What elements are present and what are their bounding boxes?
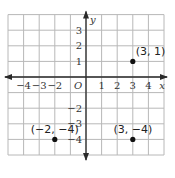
coordinate-plane: −4−3−21234321−2−3−4xyO (3, 1)(−2, −4)(3,…	[0, 0, 175, 178]
x-tick-label: 1	[98, 80, 104, 91]
data-point	[130, 137, 135, 142]
data-points: (3, 1)(−2, −4)(3, −4)	[31, 45, 166, 142]
point-label: (3, 1)	[136, 45, 166, 58]
data-point	[130, 59, 135, 64]
origin-label: O	[74, 80, 82, 91]
y-tick-label: 1	[76, 56, 82, 67]
x-tick-label: −4	[16, 80, 31, 91]
point-label: (−2, −4)	[31, 123, 79, 136]
point-label: (3, −4)	[113, 123, 152, 136]
x-tick-label: 2	[114, 80, 120, 91]
x-axis-label: x	[159, 80, 165, 91]
x-tick-label: −2	[47, 80, 62, 91]
x-tick-label: −3	[32, 80, 47, 91]
x-tick-label: 4	[145, 80, 151, 91]
data-point	[52, 137, 57, 142]
y-axis-down-arrow-icon	[83, 153, 89, 161]
y-axis-label: y	[89, 14, 96, 25]
y-tick-label: 2	[76, 40, 82, 51]
y-tick-label: 3	[76, 25, 82, 36]
y-tick-label: −2	[67, 103, 82, 114]
x-tick-label: 3	[130, 80, 136, 91]
